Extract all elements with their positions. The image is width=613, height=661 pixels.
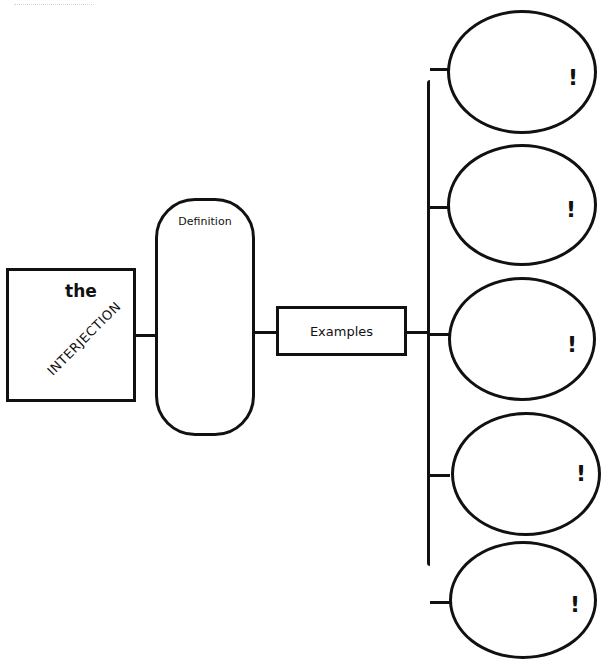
example-oval-4[interactable]: ! [451, 412, 601, 536]
cropped-header-text [14, 0, 94, 5]
exclamation-mark: ! [567, 332, 577, 357]
connector-examples-spine [407, 331, 429, 334]
examples-spine [427, 80, 430, 566]
title-box: the INTERJECTION [6, 268, 136, 402]
example-oval-3[interactable]: ! [448, 277, 596, 401]
connector-title-definition [136, 334, 156, 337]
branch-connector-4 [430, 474, 450, 477]
connector-definition-examples [255, 331, 277, 334]
definition-label: Definition [158, 215, 252, 228]
exclamation-mark: ! [576, 461, 586, 486]
exclamation-mark: ! [570, 592, 580, 617]
exclamation-mark: ! [566, 197, 576, 222]
title-the: the [65, 281, 97, 301]
exclamation-mark: ! [568, 65, 578, 90]
definition-box[interactable]: Definition [155, 198, 255, 436]
example-oval-5[interactable]: ! [449, 541, 597, 659]
examples-label: Examples [310, 324, 373, 339]
examples-box[interactable]: Examples [276, 306, 407, 356]
branch-connector-3 [430, 333, 450, 336]
branch-connector-5 [430, 601, 450, 604]
example-oval-2[interactable]: ! [447, 144, 597, 266]
example-oval-1[interactable]: ! [447, 10, 597, 134]
